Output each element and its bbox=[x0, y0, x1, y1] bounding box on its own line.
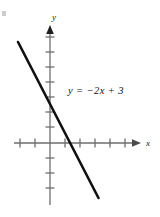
graph-canvas bbox=[0, 0, 160, 217]
y-axis-group bbox=[46, 25, 55, 205]
x-axis-group bbox=[14, 139, 141, 148]
equation-annotation: y = −2x + 3 bbox=[68, 86, 124, 97]
linear-function-line bbox=[18, 42, 99, 198]
y-axis-arrowhead bbox=[46, 25, 54, 34]
x-axis-label: x bbox=[146, 139, 150, 148]
coordinate-plane-figure: y x y = −2x + 3 bbox=[0, 0, 160, 217]
y-axis-label: y bbox=[52, 13, 56, 22]
x-axis-arrowhead bbox=[132, 139, 141, 147]
